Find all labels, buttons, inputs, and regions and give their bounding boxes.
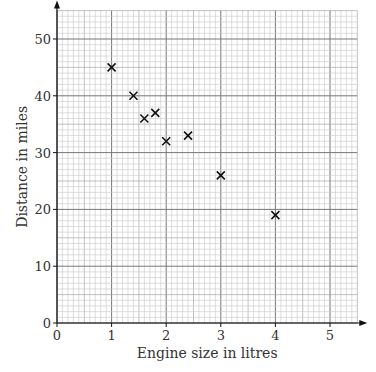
x-tick-label: 2 bbox=[162, 328, 170, 343]
y-tick-label: 10 bbox=[34, 259, 51, 274]
y-axis-arrow-icon bbox=[54, 1, 60, 9]
scatter-chart: 01234501020304050Engine size in litresDi… bbox=[0, 0, 376, 372]
y-tick-label: 20 bbox=[34, 202, 51, 217]
y-tick-label: 30 bbox=[34, 146, 51, 161]
y-tick-label: 40 bbox=[34, 89, 51, 104]
x-axis-arrow-icon bbox=[359, 320, 367, 326]
y-axis-label: Distance in miles bbox=[14, 106, 30, 228]
x-tick-label: 3 bbox=[217, 328, 225, 343]
x-tick-label: 1 bbox=[107, 328, 115, 343]
x-axis-label: Engine size in litres bbox=[137, 345, 278, 361]
chart-canvas: 01234501020304050Engine size in litresDi… bbox=[0, 0, 376, 372]
y-tick-label: 0 bbox=[43, 316, 51, 331]
x-tick-label: 4 bbox=[271, 328, 279, 343]
y-tick-label: 50 bbox=[34, 32, 51, 47]
x-tick-label: 0 bbox=[53, 328, 61, 343]
x-tick-label: 5 bbox=[326, 328, 334, 343]
